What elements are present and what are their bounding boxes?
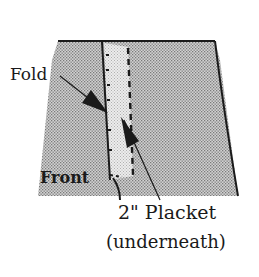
underneath-label: (underneath) [106,233,226,251]
front-label: Front [40,170,89,186]
placket-label: 2" Placket [118,203,216,222]
fold-label: Fold [10,66,47,83]
